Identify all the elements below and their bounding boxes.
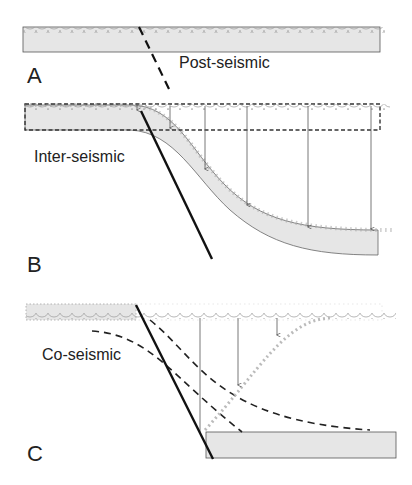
deformation-curve-upper: [150, 320, 370, 430]
displacement-arrows: [200, 318, 277, 432]
phase-label-co-seismic: Co-seismic: [42, 346, 121, 364]
phase-label-inter-seismic: Inter-seismic: [34, 148, 125, 166]
surface-scallops: [26, 313, 396, 319]
dropped-block: [206, 432, 396, 458]
phase-label-post-seismic: Post-seismic: [179, 54, 270, 72]
crust-slab-bent: [25, 105, 378, 255]
shoreline-scallops: [23, 27, 385, 33]
panel-c: [26, 304, 396, 459]
earthquake-cycle-diagram: [0, 0, 412, 485]
fault-line-solid: [136, 305, 213, 459]
panel-letter-b: B: [27, 252, 42, 278]
panel-b: [25, 103, 392, 259]
panel-letter-c: C: [27, 441, 43, 467]
post-seismic-surface: [205, 318, 330, 430]
original-scallops: [25, 104, 390, 110]
panel-letter-a: A: [27, 63, 42, 89]
